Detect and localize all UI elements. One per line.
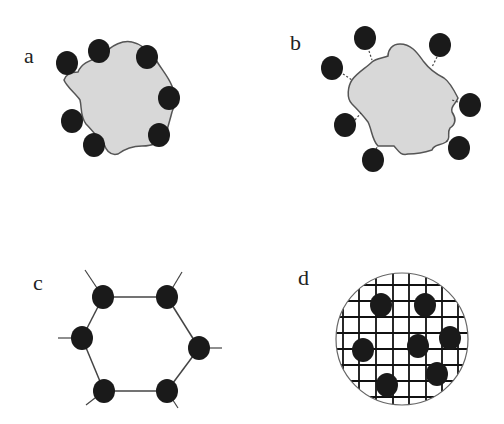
linker-line [369, 51, 372, 60]
sphere-icon [71, 326, 93, 350]
sphere-icon [439, 326, 461, 350]
spheres-c [71, 285, 210, 403]
sphere-icon [407, 334, 429, 358]
particle-blob-b [348, 44, 458, 154]
sphere-icon [56, 51, 78, 75]
sphere-icon [92, 285, 114, 309]
sphere-icon [459, 93, 481, 117]
sphere-icon [448, 136, 470, 160]
linker-line [355, 113, 361, 120]
linker-line [432, 57, 437, 67]
panel-a: a [24, 39, 180, 157]
sphere-icon [156, 285, 178, 309]
sphere-icon [426, 362, 448, 386]
sphere-icon [376, 373, 398, 397]
sphere-icon [414, 293, 436, 317]
panel-c-label: c [33, 270, 43, 295]
sphere-icon [88, 39, 110, 63]
panel-c: c [33, 270, 222, 408]
panel-d-label: d [298, 265, 309, 290]
sphere-icon [61, 109, 83, 133]
sphere-icon [156, 379, 178, 403]
panel-b-label: b [290, 30, 301, 55]
sphere-icon [158, 86, 180, 110]
sphere-icon [148, 123, 170, 147]
sphere-icon [352, 338, 374, 362]
sphere-icon [362, 148, 384, 172]
sphere-icon [83, 133, 105, 157]
figure-canvas: a b c d [0, 0, 504, 424]
sphere-icon [429, 33, 451, 57]
sphere-icon [321, 56, 343, 80]
sphere-icon [136, 45, 158, 69]
sphere-icon [354, 26, 376, 50]
linker-line [343, 74, 352, 80]
panel-d: d [298, 265, 468, 405]
panel-a-label: a [24, 43, 34, 68]
sphere-icon [188, 336, 210, 360]
panel-b: b [290, 26, 481, 172]
sphere-icon [334, 113, 356, 137]
sphere-icon [93, 379, 115, 403]
sphere-icon [370, 293, 392, 317]
